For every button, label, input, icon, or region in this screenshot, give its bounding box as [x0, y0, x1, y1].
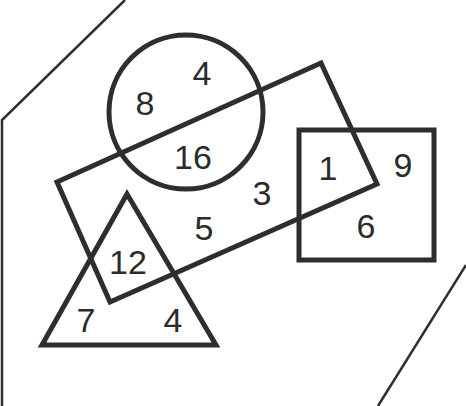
- region-label: 4: [193, 54, 212, 92]
- region-label: 16: [174, 138, 212, 176]
- region-label: 7: [77, 301, 96, 339]
- region-label: 3: [253, 174, 272, 212]
- outer-region-outline-right: [378, 265, 466, 406]
- venn-diagram: 4 8 16 1 9 3 6 5 12 7 4: [0, 0, 466, 406]
- region-label: 6: [357, 207, 376, 245]
- region-label: 5: [195, 209, 214, 247]
- region-label: 12: [109, 243, 147, 281]
- region-label: 8: [136, 84, 155, 122]
- region-label: 9: [394, 146, 413, 184]
- region-label: 4: [164, 301, 183, 339]
- region-label: 1: [319, 149, 338, 187]
